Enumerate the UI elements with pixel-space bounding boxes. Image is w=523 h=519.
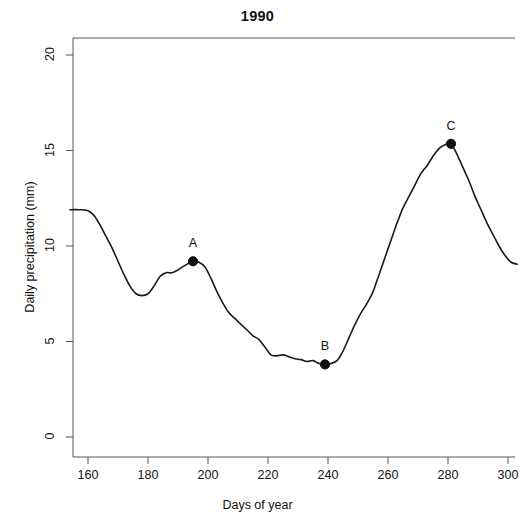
y-tick-label: 5 bbox=[43, 326, 57, 356]
x-axis-ticks bbox=[88, 457, 508, 464]
annotated-point-markers bbox=[188, 139, 455, 369]
x-tick-label: 160 bbox=[68, 468, 108, 482]
x-tick-label: 180 bbox=[128, 468, 168, 482]
y-tick-label: 20 bbox=[43, 39, 57, 69]
x-tick-label: 260 bbox=[368, 468, 408, 482]
x-tick-label: 300 bbox=[488, 468, 523, 482]
y-tick-label: 0 bbox=[43, 421, 57, 451]
x-tick-label: 220 bbox=[248, 468, 288, 482]
point-label-b: B bbox=[315, 339, 335, 353]
data-line bbox=[70, 143, 517, 364]
x-tick-label: 240 bbox=[308, 468, 348, 482]
point-label-a: A bbox=[183, 236, 203, 250]
y-tick-label: 10 bbox=[43, 230, 57, 260]
x-tick-label: 280 bbox=[428, 468, 468, 482]
plot-frame bbox=[73, 38, 515, 457]
y-axis-ticks bbox=[66, 55, 73, 437]
x-tick-label: 200 bbox=[188, 468, 228, 482]
point-label-c: C bbox=[441, 119, 461, 133]
y-tick-label: 15 bbox=[43, 135, 57, 165]
